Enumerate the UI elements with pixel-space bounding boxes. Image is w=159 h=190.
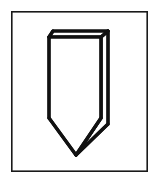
figure-root: Line drawing of a pentagonal prism with … xyxy=(0,0,159,190)
pointed-prism-figure xyxy=(0,0,159,190)
